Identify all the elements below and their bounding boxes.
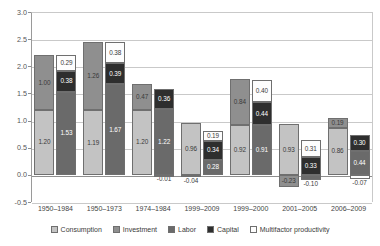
bar-segment[interactable]: 0.91 [252, 125, 272, 174]
bar-segment[interactable]: 0.86 [328, 128, 348, 175]
data-label: 1.67 [109, 126, 121, 132]
legend-item[interactable]: Multifactor productivity [250, 226, 330, 233]
bar-left[interactable]: 0.93-0.23 [279, 12, 299, 202]
bar-group: -0.040.960.280.340.19 [178, 12, 227, 202]
y-tick-label: 2.5 [0, 36, 27, 43]
bar-segment[interactable]: 0.30 [350, 135, 370, 151]
bar-segment[interactable]: 0.34 [203, 141, 223, 159]
y-tick-label: -0.5 [0, 199, 27, 206]
x-tick-label: 2001–2005 [282, 205, 317, 212]
bar-left[interactable]: 1.191.26 [83, 12, 103, 202]
bars-container: 1.201.001.530.380.291.191.261.670.390.38… [31, 12, 373, 202]
bar-segment[interactable]: 0.47 [132, 84, 152, 110]
bar-segment[interactable]: 0.28 [203, 160, 223, 175]
bar-segment[interactable]: 0.93 [279, 124, 299, 174]
data-label: 1.22 [158, 139, 170, 145]
legend-swatch [51, 226, 58, 233]
bar-segment[interactable]: 1.26 [83, 42, 103, 110]
data-label: 0.33 [305, 163, 317, 169]
x-tick-label: 1950–1984 [38, 205, 73, 212]
bar-segment[interactable]: 1.20 [34, 110, 54, 175]
y-tick-mark [28, 202, 31, 203]
data-label: 0.39 [109, 70, 121, 76]
data-label: 0.40 [256, 87, 268, 93]
bar-segment[interactable]: 0.39 [105, 63, 125, 84]
data-label: 0.96 [185, 146, 197, 152]
bar-segment[interactable]: 1.19 [83, 110, 103, 175]
bar-right[interactable]: 1.220.36 [154, 12, 174, 202]
bar-segment[interactable]: 0.33 [301, 157, 321, 175]
bar-group: 0.93-0.23-0.100.330.31 [275, 12, 324, 202]
bar-segment[interactable]: 1.22 [154, 109, 174, 175]
bar-segment[interactable]: 1.20 [132, 110, 152, 175]
y-tick-label: 3.0 [0, 9, 27, 16]
bar-segment[interactable]: 0.38 [56, 71, 76, 92]
data-label: 0.19 [332, 120, 344, 126]
legend-label: Consumption [61, 226, 102, 233]
gridline [32, 203, 372, 204]
legend-label: Labor [178, 226, 196, 233]
stacked-bar-chart: 3.02.52.01.51.00.50.0-0.5 1.201.001.530.… [0, 0, 380, 246]
legend-swatch [250, 226, 257, 233]
bar-segment[interactable]: 0.36 [154, 89, 174, 109]
legend-swatch [207, 226, 214, 233]
bar-segment[interactable] [301, 175, 321, 180]
bar-segment[interactable]: 0.31 [301, 140, 321, 157]
bar-segment[interactable]: 0.92 [230, 125, 250, 175]
bar-segment[interactable] [154, 175, 174, 177]
bar-segment[interactable]: 0.84 [230, 79, 250, 125]
bar-left[interactable]: 1.201.00 [34, 12, 54, 202]
bar-right[interactable]: 0.910.440.40 [252, 12, 272, 202]
bar-segment[interactable]: 0.40 [252, 80, 272, 102]
data-label: 0.44 [354, 160, 366, 166]
data-label: 0.29 [60, 60, 72, 66]
bar-segment[interactable]: 0.19 [328, 118, 348, 128]
x-tick-label: 1974–1984 [136, 205, 171, 212]
bar-left[interactable]: 0.96 [181, 12, 201, 202]
bar-segment[interactable]: 0.29 [56, 55, 76, 71]
bar-segment[interactable] [350, 175, 370, 179]
data-label: 1.00 [38, 79, 50, 85]
bar-segment[interactable]: 0.19 [203, 131, 223, 141]
bar-segment[interactable]: 0.44 [350, 151, 370, 175]
y-tick-label: 0.0 [0, 171, 27, 178]
data-label: 1.26 [87, 73, 99, 79]
legend-item[interactable]: Consumption [51, 226, 102, 233]
data-label: 1.20 [136, 139, 148, 145]
data-label: 0.38 [109, 50, 121, 56]
bar-left[interactable]: 0.920.84 [230, 12, 250, 202]
bar-left[interactable]: 1.200.47 [132, 12, 152, 202]
bar-group: 0.920.840.910.440.40 [226, 12, 275, 202]
bar-segment[interactable]: 1.53 [56, 92, 76, 175]
data-label: 0.28 [207, 164, 219, 170]
legend-item[interactable]: Investment [113, 226, 157, 233]
bar-right[interactable]: 0.280.340.19 [203, 12, 223, 202]
bar-right[interactable]: 1.670.390.38 [105, 12, 125, 202]
y-tick-label: 1.0 [0, 117, 27, 124]
data-label: 1.20 [38, 139, 50, 145]
data-label: 0.31 [305, 145, 317, 151]
legend-item[interactable]: Capital [207, 226, 239, 233]
data-label: 0.38 [60, 78, 72, 84]
bar-right[interactable]: 1.530.380.29 [56, 12, 76, 202]
legend: ConsumptionInvestmentLaborCapitalMultifa… [0, 226, 380, 233]
bar-right[interactable]: 0.440.30 [350, 12, 370, 202]
data-label: 0.44 [256, 110, 268, 116]
bar-segment[interactable]: 0.38 [105, 42, 125, 63]
legend-label: Investment [123, 226, 157, 233]
bar-segment[interactable]: 1.00 [34, 55, 54, 109]
bar-segment[interactable]: 1.67 [105, 84, 125, 175]
bar-segment[interactable]: 0.44 [252, 102, 272, 126]
data-label: 1.19 [87, 139, 99, 145]
bar-left[interactable]: 0.860.19 [328, 12, 348, 202]
bar-segment[interactable] [181, 175, 201, 177]
legend-label: Capital [217, 226, 239, 233]
x-tick-label: 1999–2009 [184, 205, 219, 212]
data-label: 0.84 [234, 99, 246, 105]
bar-segment[interactable]: 0.96 [181, 123, 201, 175]
data-label: 1.53 [60, 130, 72, 136]
bar-group: 0.860.19-0.070.440.30 [324, 12, 373, 202]
legend-item[interactable]: Labor [168, 226, 196, 233]
bar-segment[interactable]: -0.23 [279, 175, 299, 187]
bar-right[interactable]: 0.330.31 [301, 12, 321, 202]
